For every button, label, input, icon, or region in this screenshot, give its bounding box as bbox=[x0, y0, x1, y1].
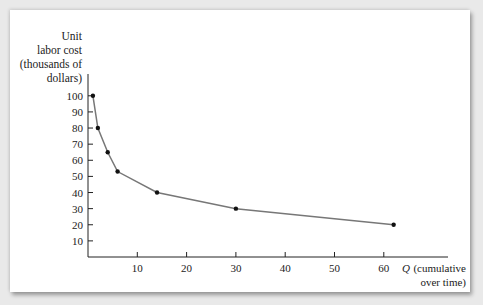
y-tick-label: 20 bbox=[72, 219, 84, 231]
y-ticks: 100908070605040302010 bbox=[67, 90, 94, 247]
x-tick-label: 40 bbox=[280, 262, 292, 274]
x-tick-label: 20 bbox=[181, 262, 193, 274]
data-point bbox=[96, 126, 100, 130]
data-point bbox=[106, 150, 110, 154]
y-tick-label: 50 bbox=[72, 170, 84, 182]
x-axis-label-line: (cumulative bbox=[413, 262, 466, 275]
y-tick-label: 80 bbox=[72, 122, 84, 134]
data-point bbox=[234, 206, 238, 210]
x-tick-label: 30 bbox=[230, 262, 242, 274]
y-tick-label: 100 bbox=[67, 90, 84, 102]
y-tick-label: 90 bbox=[72, 106, 84, 118]
y-axis-label-line: (thousands of bbox=[20, 58, 82, 71]
y-axis-label-line: Unit bbox=[62, 30, 83, 42]
y-axis-label: Unitlabor cost(thousands ofdollars) bbox=[20, 30, 83, 85]
data-point bbox=[91, 94, 95, 98]
y-tick-label: 40 bbox=[72, 187, 84, 199]
y-tick-label: 60 bbox=[72, 154, 84, 166]
x-axis-label: Q(cumulativeover time) bbox=[402, 262, 466, 289]
y-tick-label: 30 bbox=[72, 203, 84, 215]
x-axis-label-line: over time) bbox=[420, 276, 466, 289]
y-axis-label-line: labor cost bbox=[37, 44, 83, 56]
y-axis-label-line: dollars) bbox=[47, 72, 82, 85]
data-point bbox=[155, 190, 159, 194]
data-point bbox=[391, 223, 395, 227]
data-point bbox=[115, 169, 119, 173]
x-axis-label-q: Q bbox=[402, 262, 410, 274]
cost-curve bbox=[93, 96, 394, 225]
data-points bbox=[91, 94, 396, 227]
x-tick-label: 50 bbox=[329, 262, 341, 274]
y-tick-label: 10 bbox=[72, 235, 84, 247]
x-ticks: 102030405060 bbox=[132, 252, 390, 274]
learning-curve-chart: Unitlabor cost(thousands ofdollars) 1009… bbox=[0, 0, 483, 305]
x-tick-label: 10 bbox=[132, 262, 144, 274]
y-tick-label: 70 bbox=[72, 138, 84, 150]
x-tick-label: 60 bbox=[378, 262, 390, 274]
